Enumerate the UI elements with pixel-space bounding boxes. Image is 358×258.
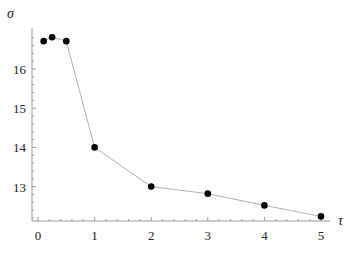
x-tick-label: 5 <box>318 228 325 243</box>
axes <box>32 28 330 221</box>
data-point <box>49 34 56 41</box>
data-point <box>40 38 47 45</box>
tick-labels: 01234513141516 <box>13 62 324 243</box>
y-axis-title: σ <box>7 6 15 21</box>
data-point <box>261 202 268 209</box>
x-tick-label: 1 <box>91 228 98 243</box>
x-axis-title: τ <box>338 213 344 228</box>
x-tick-label: 2 <box>148 228 155 243</box>
data-point <box>63 38 70 45</box>
y-tick-label: 16 <box>13 62 27 77</box>
x-tick-label: 4 <box>261 228 268 243</box>
data-point <box>205 190 212 197</box>
y-tick-label: 14 <box>13 140 27 155</box>
data-point <box>148 183 155 190</box>
y-tick-label: 13 <box>13 180 26 195</box>
y-tick-label: 15 <box>13 101 26 116</box>
ticks <box>32 38 321 221</box>
x-tick-label: 3 <box>205 228 212 243</box>
x-tick-label: 0 <box>35 228 42 243</box>
data-point <box>91 144 98 151</box>
data-point <box>318 213 325 220</box>
series-line <box>44 37 321 216</box>
data-points <box>40 34 324 220</box>
chart: 01234513141516 τ σ <box>0 0 358 258</box>
